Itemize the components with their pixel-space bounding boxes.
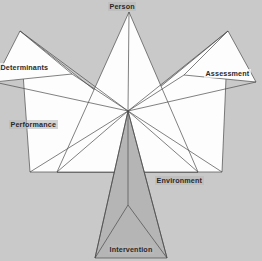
- diagram-canvas: Person Determinants Assessment Performan…: [0, 0, 262, 261]
- label-performance: Performance: [9, 120, 58, 129]
- label-assessment: Assessment: [204, 69, 251, 78]
- label-person: Person: [108, 2, 136, 11]
- label-determinants: Determinants: [0, 63, 50, 72]
- label-environment: Environment: [155, 176, 204, 185]
- label-intervention: Intervention: [108, 245, 154, 254]
- star-diagram-graphic: [0, 0, 262, 261]
